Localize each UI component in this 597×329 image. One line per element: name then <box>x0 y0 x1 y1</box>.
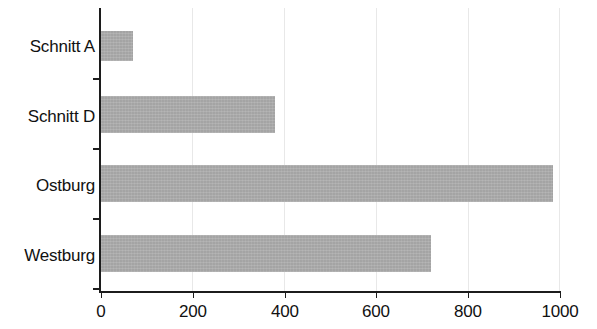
x-axis-tick-label: 400 <box>250 302 320 321</box>
x-axis-tick <box>101 291 102 298</box>
bar-chart: Schnitt A Schnitt D Ostburg Westburg 020… <box>0 0 597 329</box>
gridline-1000 <box>559 8 560 291</box>
gridline-800 <box>468 8 469 291</box>
plot-area <box>101 8 560 291</box>
x-axis-tick-label: 1000 <box>525 302 595 321</box>
x-axis-tick <box>285 291 286 298</box>
bar-ostburg <box>101 165 553 202</box>
y-axis-tick <box>93 288 100 290</box>
x-axis-tick-label: 200 <box>158 302 228 321</box>
y-axis-tick <box>93 218 100 220</box>
x-axis-tick-label: 800 <box>433 302 503 321</box>
y-axis-line <box>99 8 101 293</box>
x-axis-tick <box>560 291 561 298</box>
bar-schnitt-d <box>101 96 275 133</box>
x-axis-tick <box>376 291 377 298</box>
bar-schnitt-a <box>101 31 133 61</box>
x-axis-line <box>99 291 561 293</box>
y-axis-label-westburg: Westburg <box>0 247 95 264</box>
x-axis-tick-label: 600 <box>341 302 411 321</box>
y-axis-tick <box>93 148 100 150</box>
x-axis-tick <box>468 291 469 298</box>
x-axis-tick-label: 0 <box>66 302 136 321</box>
x-axis-tick <box>193 291 194 298</box>
y-axis-label-ostburg: Ostburg <box>0 177 95 194</box>
y-axis-tick <box>93 78 100 80</box>
y-axis-label-schnitt-d: Schnitt D <box>0 108 95 125</box>
bar-westburg <box>101 235 431 272</box>
y-axis-label-schnitt-a: Schnitt A <box>0 38 95 55</box>
